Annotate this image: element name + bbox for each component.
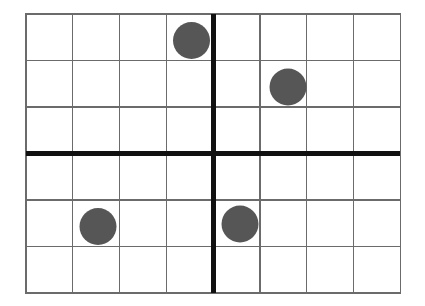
grid-cell: [73, 61, 120, 108]
marker-dot-3: [80, 208, 117, 245]
grid-cell: [354, 200, 401, 247]
grid-cell: [354, 154, 401, 201]
grid-cell: [307, 61, 354, 108]
grid-cell: [73, 107, 120, 154]
grid-cell: [120, 154, 167, 201]
grid-cell: [26, 247, 73, 294]
grid-cell: [213, 107, 260, 154]
grid-cell: [354, 247, 401, 294]
grid-cell: [307, 247, 354, 294]
grid-cell: [354, 14, 401, 61]
grid-cell: [73, 14, 120, 61]
grid-cell: [73, 247, 120, 294]
grid-cell: [26, 200, 73, 247]
marker-dot-1: [173, 22, 210, 59]
grid-cell: [120, 14, 167, 61]
grid-cell: [260, 247, 307, 294]
grid-cell: [120, 107, 167, 154]
marker-dot-4: [222, 206, 259, 243]
grid-cell: [354, 61, 401, 108]
grid-cell: [166, 200, 213, 247]
grid-cell: [166, 61, 213, 108]
grid-cell: [26, 154, 73, 201]
grid-cell: [120, 247, 167, 294]
marker-dot-2: [270, 69, 307, 106]
grid-cell: [166, 107, 213, 154]
grid-cell: [260, 107, 307, 154]
grid-cell: [26, 14, 73, 61]
grid-cell: [26, 107, 73, 154]
grid-cell: [213, 154, 260, 201]
grid-cell: [73, 154, 120, 201]
grid-cell: [213, 247, 260, 294]
grid-cell: [260, 200, 307, 247]
grid-cell: [213, 61, 260, 108]
figure-canvas: [0, 0, 425, 306]
grid-cell: [307, 200, 354, 247]
grid-cell: [260, 14, 307, 61]
quadrant-grid-figure: [0, 0, 425, 306]
grid-cell: [354, 107, 401, 154]
grid-cell: [307, 107, 354, 154]
grid-cell: [26, 61, 73, 108]
grid-cell: [213, 14, 260, 61]
grid-cell: [307, 154, 354, 201]
grid-cell: [166, 247, 213, 294]
grid-cell: [120, 61, 167, 108]
grid-cell: [120, 200, 167, 247]
grid-cell: [260, 154, 307, 201]
grid-cell: [307, 14, 354, 61]
grid-cell: [166, 154, 213, 201]
